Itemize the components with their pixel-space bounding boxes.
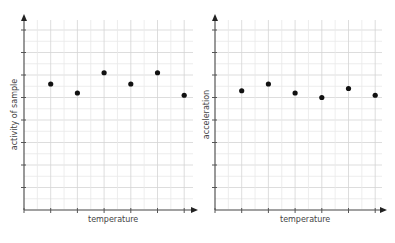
right-x-axis-label: temperature: [280, 215, 330, 224]
right-chart: temperature acceleration: [0, 0, 395, 243]
data-point: [373, 93, 378, 98]
right-chart-plot: [0, 0, 395, 243]
x-axis-arrow-icon: [380, 207, 387, 213]
y-axis-arrow-icon: [212, 14, 218, 21]
right-y-axis-label: acceleration: [202, 80, 211, 150]
data-point: [293, 90, 298, 95]
data-point: [266, 81, 271, 86]
data-point: [319, 95, 324, 100]
data-point: [346, 86, 351, 91]
data-point: [239, 88, 244, 93]
